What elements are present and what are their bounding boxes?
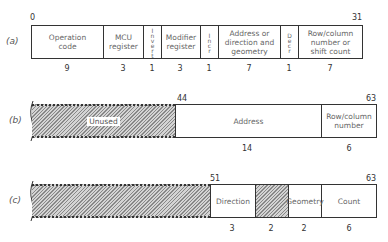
- field-invert-label: Invert: [148, 27, 157, 57]
- field-count: Count: [322, 185, 376, 217]
- width-row-column-b: 6: [346, 144, 351, 153]
- instruction-format-c: Direction Geometry Count: [210, 184, 377, 218]
- width-modifier-register: 3: [177, 64, 182, 73]
- field-row-column-shift: Row/column number or shift count: [299, 26, 362, 58]
- width-reserved: 2: [268, 224, 273, 233]
- width-geometry: 2: [301, 224, 306, 233]
- field-unused-c: [32, 184, 210, 218]
- panel-label-c: (c): [9, 195, 21, 205]
- field-modifier-register: Modifier register: [162, 26, 201, 58]
- width-address-b: 14: [242, 144, 252, 153]
- end-bit-b: 63: [366, 94, 376, 103]
- field-address-direction-geometry: Address or direction and geometry: [219, 26, 281, 58]
- field-geometry: Geometry: [289, 185, 322, 217]
- width-invert: 1: [149, 64, 154, 73]
- width-mcu-register: 3: [120, 64, 125, 73]
- width-operation-code: 9: [64, 64, 69, 73]
- width-decr: 1: [286, 64, 291, 73]
- field-operation-code: Operation code: [32, 26, 104, 58]
- field-invert: Invert: [144, 26, 162, 58]
- start-bit-a: 0: [30, 13, 35, 22]
- field-address-b: Address: [176, 105, 322, 137]
- mid-bit-c: 51: [210, 174, 220, 183]
- width-address: 7: [246, 64, 251, 73]
- field-unused-label: Unused: [87, 117, 119, 126]
- field-incr-label: Incr: [205, 32, 214, 52]
- field-unused-b: Unused: [32, 104, 175, 138]
- end-bit-c: 63: [366, 174, 376, 183]
- field-row-column-b: Row/column number: [322, 105, 376, 137]
- field-decr-label: Decr: [285, 32, 294, 52]
- panel-label-a: (a): [6, 36, 19, 46]
- instruction-format-a: Operation code MCU register Invert Modif…: [31, 25, 363, 59]
- field-reserved: [256, 185, 289, 217]
- width-count: 6: [346, 224, 351, 233]
- width-row-column: 7: [327, 64, 332, 73]
- field-mcu-register: MCU register: [104, 26, 144, 58]
- mid-bit-b: 44: [177, 94, 187, 103]
- width-direction: 3: [229, 224, 234, 233]
- field-direction: Direction: [211, 185, 256, 217]
- field-decr: Decr: [281, 26, 299, 58]
- panel-label-b: (b): [9, 115, 22, 125]
- width-incr: 1: [206, 64, 211, 73]
- field-incr: Incr: [201, 26, 219, 58]
- end-bit-a: 31: [352, 13, 362, 22]
- instruction-format-b: Address Row/column number: [175, 104, 377, 138]
